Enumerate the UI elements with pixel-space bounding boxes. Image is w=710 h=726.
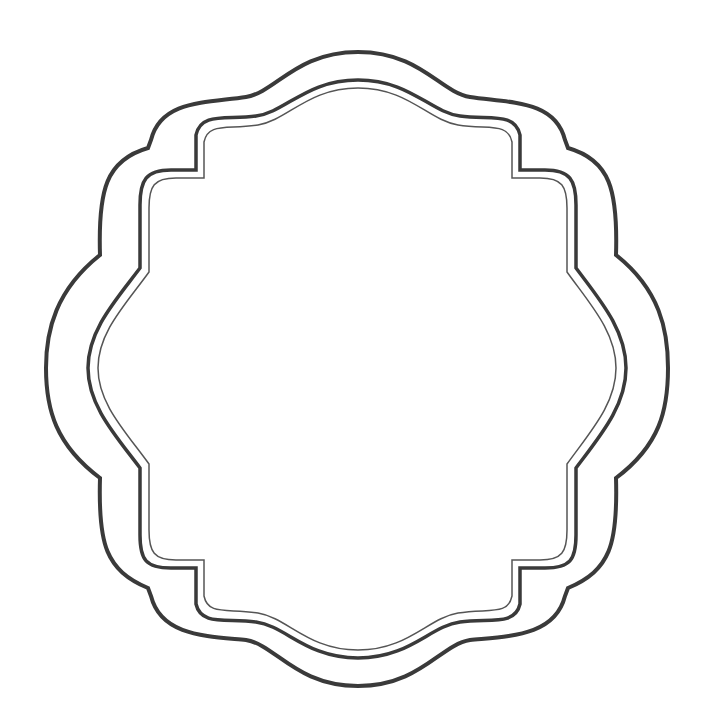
decorative-frame	[0, 0, 710, 726]
frame-inner-outline	[98, 88, 616, 650]
frame-outer-outline	[46, 52, 668, 686]
frame-middle-outline	[88, 80, 626, 658]
